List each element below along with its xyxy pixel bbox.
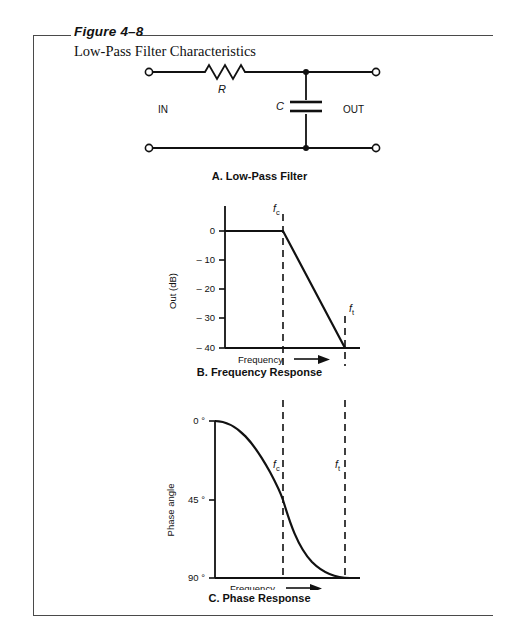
output-terminal-bottom xyxy=(372,144,379,151)
freq-ytick-0: 0 xyxy=(210,225,215,236)
frequency-response-curve xyxy=(225,231,345,348)
frequency-cutoff-label: fc xyxy=(273,202,280,217)
frequency-x-axis-label: Frequency xyxy=(238,354,283,365)
phase-y-axis-label: Phase angle xyxy=(165,484,176,537)
circuit-caption: A. Low-Pass Filter xyxy=(0,170,519,182)
figure-title: Low-Pass Filter Characteristics xyxy=(74,43,256,60)
figure-number: Figure 4–8 xyxy=(74,24,144,39)
phase-x-axis-label: Frequency xyxy=(230,583,275,590)
freq-ytick-4: – 40 xyxy=(197,342,216,353)
output-terminal-top xyxy=(372,68,379,75)
frame-left-border xyxy=(33,35,34,616)
circuit-diagram: R C IN OUT xyxy=(140,60,390,170)
frame-top-left-segment xyxy=(33,35,71,36)
input-terminal-bottom xyxy=(145,144,152,151)
phase-ytick-45: 45 ° xyxy=(188,494,205,505)
frequency-y-axis-label: Out (dB) xyxy=(167,273,178,309)
frame-top-right-segment xyxy=(138,35,493,36)
frequency-transition-label: ft xyxy=(349,302,355,317)
resistor-label: R xyxy=(218,83,226,95)
figure-container: Figure 4–8 Low-Pass Filter Characteristi… xyxy=(0,0,519,636)
phase-response-chart: 0 ° 45 ° 90 ° Phase angle fc ft Frequenc… xyxy=(160,400,390,590)
phase-cutoff-label: fc xyxy=(273,458,280,473)
freq-ytick-1: – 10 xyxy=(197,254,216,265)
phase-response-caption: C. Phase Response xyxy=(0,592,519,604)
input-terminal-top xyxy=(145,68,152,75)
junction-node-bottom xyxy=(303,145,309,151)
capacitor-label: C xyxy=(276,100,284,112)
frequency-response-chart: 0 – 10 – 20 – 30 – 40 Out (dB) fc ft Fre… xyxy=(160,196,390,366)
freq-ytick-2: – 20 xyxy=(197,283,216,294)
input-label: IN xyxy=(158,104,168,115)
frequency-response-caption: B. Frequency Response xyxy=(0,366,519,378)
phase-transition-label: ft xyxy=(335,458,341,473)
phase-ytick-0: 0 ° xyxy=(193,415,205,426)
phase-ytick-90: 90 ° xyxy=(188,572,205,583)
phase-axis-arrow-icon xyxy=(310,584,322,590)
output-label: OUT xyxy=(343,104,364,115)
frequency-axis-arrow-icon xyxy=(318,355,330,364)
freq-ytick-3: – 30 xyxy=(197,312,216,323)
frame-bottom-border xyxy=(33,615,493,616)
